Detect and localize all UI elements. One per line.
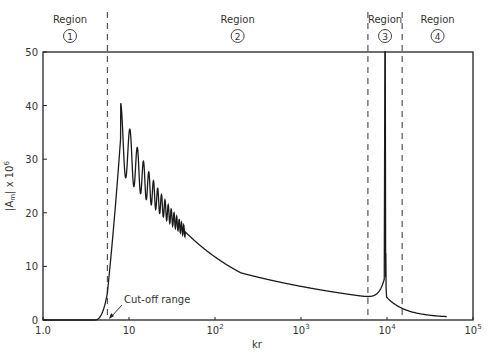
chart-canvas: 01020304050 1.010102103104105 Region1Reg… <box>0 0 494 360</box>
region-label-4: Region4 <box>420 14 454 43</box>
cutoff-label: Cut-off range <box>124 294 190 305</box>
x-tick-label: 1.0 <box>35 325 51 336</box>
svg-text:4: 4 <box>435 32 441 42</box>
x-tick-label: 102 <box>206 323 223 336</box>
data-curve <box>43 52 447 320</box>
svg-text:Region: Region <box>368 14 402 25</box>
svg-text:2: 2 <box>235 32 241 42</box>
cutoff-annotation: Cut-off range <box>109 294 190 319</box>
y-axis-label: |Am| x 106 <box>3 161 17 211</box>
svg-text:Region: Region <box>221 14 255 25</box>
region-label-2: Region2 <box>221 14 255 43</box>
x-axis-label: kr <box>252 339 263 350</box>
x-tick-label: 104 <box>378 323 396 336</box>
svg-text:Region: Region <box>420 14 454 25</box>
y-tick-label: 50 <box>25 47 38 58</box>
y-tick-label: 40 <box>25 101 38 112</box>
y-tick-label: 20 <box>25 208 38 219</box>
region-label-1: Region1 <box>53 14 87 43</box>
x-tick-label: 105 <box>464 323 481 336</box>
svg-text:Region: Region <box>53 14 87 25</box>
y-tick-label: 10 <box>25 261 38 272</box>
svg-text:3: 3 <box>382 32 388 42</box>
y-tick-label: 30 <box>25 154 38 165</box>
svg-text:|Am| x 106: |Am| x 106 <box>3 161 17 211</box>
x-tick-label: 10 <box>123 325 136 336</box>
region-label-3: Region3 <box>368 14 402 43</box>
x-tick-label: 103 <box>292 323 309 336</box>
region-labels: Region1Region2Region3Region4 <box>53 14 455 43</box>
y-axis: 01020304050 <box>25 47 47 326</box>
region-boundaries <box>107 12 402 320</box>
svg-text:1: 1 <box>67 32 73 42</box>
